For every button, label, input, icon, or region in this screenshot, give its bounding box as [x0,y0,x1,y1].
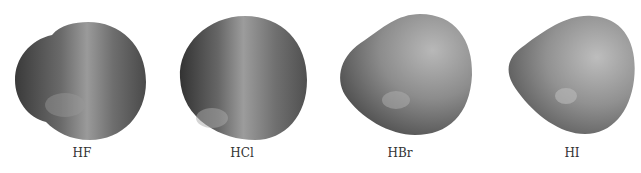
hcl-surface-shape [160,0,320,140]
hi-surface-shape [480,0,641,140]
label-hi: HI [532,146,612,160]
molecule-hf: HF [0,0,160,173]
molecule-hcl: HCl [160,0,320,173]
label-hcl: HCl [202,146,282,160]
label-hf: HF [42,146,122,160]
molecule-hi: HI [480,0,641,173]
hbr-surface-shape [320,0,480,140]
molecule-hbr: HBr [320,0,480,173]
hf-surface-shape [0,0,160,140]
label-hbr: HBr [360,146,440,160]
